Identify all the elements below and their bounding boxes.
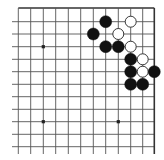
black-stone [125, 66, 137, 78]
black-stone [100, 16, 112, 28]
star-point [42, 45, 45, 48]
black-stone [125, 78, 137, 90]
white-stone [125, 16, 136, 27]
go-board-diagram [0, 0, 164, 160]
black-stone [137, 78, 149, 90]
black-stone [100, 41, 112, 53]
white-stone [113, 29, 124, 40]
star-point [42, 120, 45, 123]
black-stone [87, 28, 99, 40]
black-stone [148, 66, 160, 78]
black-stone [125, 53, 137, 65]
white-stone [125, 41, 136, 52]
black-stone [112, 41, 124, 53]
star-point [117, 120, 120, 123]
stones [87, 16, 160, 91]
white-stone [137, 66, 148, 77]
white-stone [137, 54, 148, 65]
